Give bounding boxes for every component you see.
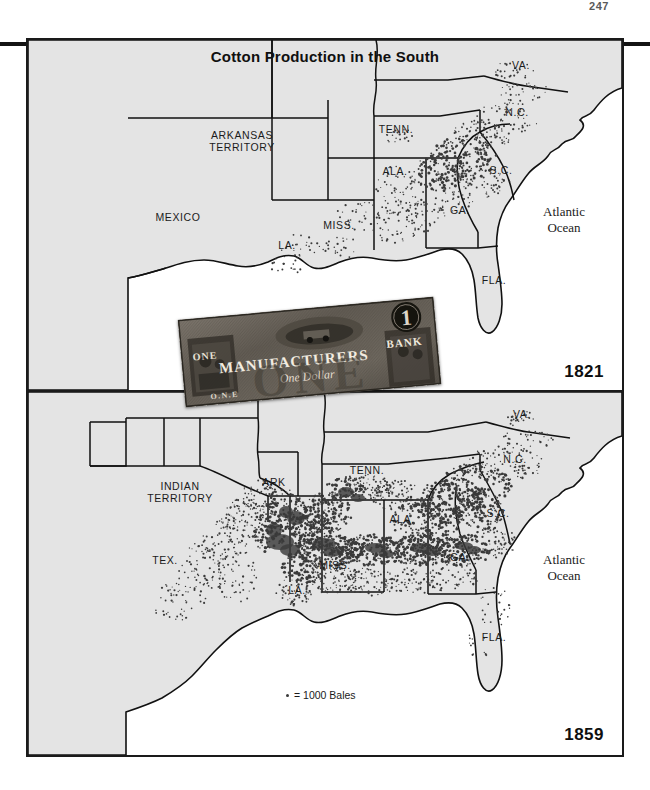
legend-dot-icon [286,694,289,697]
state-label-north-carolina: N.C. [503,453,526,465]
year-label-1821: 1821 [564,362,604,382]
state-label-louisiana: LA. [278,239,296,251]
state-label-alabama: ALA. [389,513,414,525]
state-label-tennessee: TENN. [379,123,414,135]
state-label-mississippi: MISS. [323,219,355,231]
ocean-label: AtlanticOcean [543,204,585,235]
state-label-florida: FLA. [482,274,507,286]
legend-label: = 1000 Bales [294,689,356,701]
map-panel-1859: INDIANTERRITORYTEX.ARKTENN.ALA.MISS.LA.G… [28,392,622,755]
state-label-louisiana: LA. [288,584,306,596]
state-label-georgia: GA. [450,551,470,563]
state-label-mississippi: MISS. [319,559,351,571]
state-label-georgia: GA. [450,204,470,216]
state-label-north-carolina: N.C. [505,106,528,118]
figure-frame: ARKANSASTERRITORYMEXICOTENN.ALA.MISS.LA.… [26,38,624,757]
state-label-arkansas: ARK [262,476,285,488]
state-label-texas: TEX. [152,554,178,566]
state-label-tennessee: TENN. [350,464,385,476]
state-label-south-carolina: S.C. [487,507,510,519]
map-legend: = 1000 Bales [286,689,356,701]
ocean-label: AtlanticOcean [543,552,585,583]
page-number: 247 [574,0,624,14]
state-label-virginia: VA. [512,59,530,71]
state-label-arkansas-territory: ARKANSASTERRITORY [209,129,275,153]
state-label-florida: FLA. [482,631,507,643]
banknote-denomination-word-left: ONE [192,349,218,362]
state-label-south-carolina: S.C. [490,164,513,176]
year-label-1859: 1859 [564,725,604,745]
state-label-alabama: ALA. [382,165,407,177]
banknote-denomination-numeral: 1 [400,305,413,331]
state-label-mexico: MEXICO [155,211,200,223]
state-label-virginia: VA. [513,408,531,420]
header-rule-right [620,42,650,46]
